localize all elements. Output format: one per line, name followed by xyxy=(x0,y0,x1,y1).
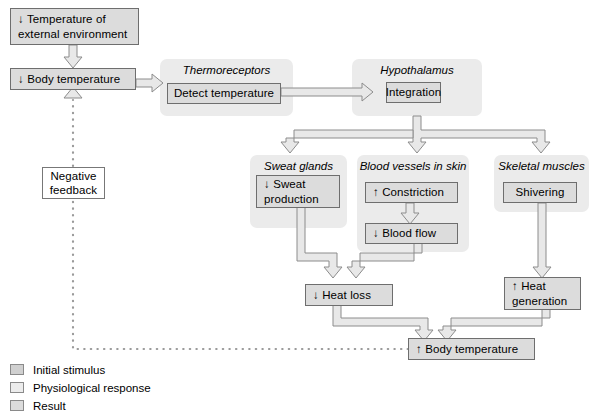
legend-label-physiological-response: Physiological response xyxy=(33,382,151,394)
panel-title-sweat-glands: Sweat glands xyxy=(250,160,347,172)
heat-loss-label: ↓ Heat loss xyxy=(313,288,371,302)
external-temp-line1: ↓ Temperature of xyxy=(18,13,106,25)
thermoregulation-flowchart: .ar { fill:#e8e8e8; stroke:#8c8c8c; stro… xyxy=(0,0,598,413)
panel-title-thermoreceptors: Thermoreceptors xyxy=(160,64,293,76)
heat-generation-line2: generation xyxy=(512,295,567,307)
node-blood-flow: ↓ Blood flow xyxy=(365,223,458,244)
legend-swatch-physiological-response xyxy=(10,382,24,393)
blood-flow-label: ↓ Blood flow xyxy=(373,226,436,240)
negative-feedback-line2: feedback xyxy=(50,184,97,196)
node-external-temperature: ↓ Temperature of external environment xyxy=(10,8,139,45)
node-body-temperature-high: ↑ Body temperature xyxy=(408,338,535,360)
legend-item-result: Result xyxy=(10,397,220,413)
legend-swatch-result xyxy=(10,400,24,411)
panel-title-blood-vessels: Blood vessels in skin xyxy=(352,160,474,172)
external-temp-line2: external environment xyxy=(18,28,127,40)
detect-temperature-label: Detect temperature xyxy=(174,86,274,100)
body-temp-low-label: ↓ Body temperature xyxy=(18,72,120,86)
node-sweat-production: ↓ Sweat production xyxy=(256,175,340,208)
integration-label: Integration xyxy=(386,85,441,99)
node-heat-generation: ↑ Heat generation xyxy=(504,277,581,310)
sweat-production-line2: production xyxy=(264,193,319,205)
body-temp-high-label: ↑ Body temperature xyxy=(416,342,518,356)
node-heat-loss: ↓ Heat loss xyxy=(305,284,393,306)
shivering-label: Shivering xyxy=(516,185,565,199)
node-negative-feedback: Negative feedback xyxy=(42,167,105,199)
legend: Initial stimulus Physiological response … xyxy=(10,361,220,413)
constriction-label: ↑ Constriction xyxy=(373,185,444,199)
legend-item-physiological-response: Physiological response xyxy=(10,379,220,396)
legend-swatch-initial-stimulus xyxy=(10,364,24,375)
sweat-production-line1: ↓ Sweat xyxy=(264,178,306,190)
legend-label-result: Result xyxy=(33,400,66,412)
node-shivering: Shivering xyxy=(503,182,577,203)
panel-title-hypothalamus: Hypothalamus xyxy=(352,64,482,76)
node-detect-temperature: Detect temperature xyxy=(167,83,281,104)
heat-generation-line1: ↑ Heat xyxy=(512,280,546,292)
node-constriction: ↑ Constriction xyxy=(365,182,458,203)
node-integration: Integration xyxy=(386,82,441,103)
legend-item-initial-stimulus: Initial stimulus xyxy=(10,361,220,378)
panel-title-skeletal-muscles: Skeletal muscles xyxy=(492,160,591,172)
legend-label-initial-stimulus: Initial stimulus xyxy=(33,364,105,376)
negative-feedback-line1: Negative xyxy=(50,170,96,182)
node-body-temperature-low: ↓ Body temperature xyxy=(10,68,136,90)
